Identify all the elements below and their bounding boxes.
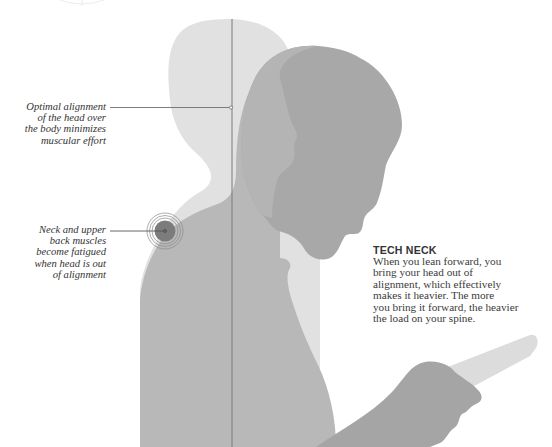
tech-neck-description: When you lean forward, you bring your he… [373,256,552,324]
callout-neck-muscles: Neck and upper back muscles become fatig… [10,224,106,280]
hand-shape-icon [316,362,482,447]
callout-optimal-alignment: Optimal alignment of the head over the b… [10,101,106,146]
tech-neck-panel: TECH NECK When you lean forward, you bri… [373,244,552,324]
faint-target-icon [60,0,104,6]
